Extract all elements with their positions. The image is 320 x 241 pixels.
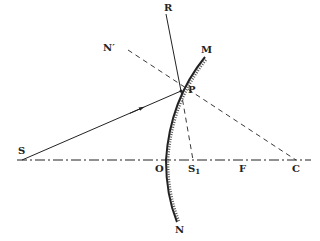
- label-s: S: [18, 145, 25, 156]
- label-r: R: [164, 2, 173, 13]
- mirror-surface: [166, 57, 205, 222]
- incident-ray: [22, 91, 181, 160]
- virtual-ray: [181, 91, 193, 160]
- label-c: C: [292, 163, 300, 174]
- label-m: M: [201, 44, 212, 55]
- normal-line: [128, 50, 296, 160]
- optics-diagram: R M N′ P S O S1 F C N: [0, 0, 320, 241]
- point-p-dot: [180, 90, 183, 93]
- label-n-prime: N′: [103, 42, 115, 53]
- label-f: F: [239, 163, 246, 174]
- label-n: N: [175, 224, 184, 235]
- label-o: O: [155, 163, 164, 174]
- label-s1: S1: [188, 163, 200, 176]
- label-p: P: [188, 84, 196, 95]
- incident-ray-arrow-icon: [130, 108, 142, 113]
